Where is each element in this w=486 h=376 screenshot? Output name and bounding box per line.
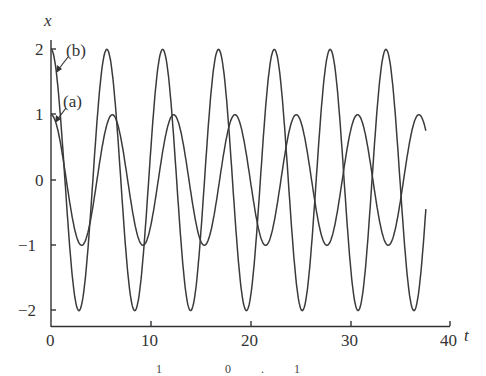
y-ticks — [51, 49, 56, 310]
y-tick-label-0: 0 — [35, 171, 44, 190]
x-ticks — [151, 321, 450, 326]
series-a-curve — [51, 115, 426, 246]
annotation-b-label: (b) — [66, 41, 86, 60]
annotation-b: (b) — [56, 41, 86, 73]
annotation-a-label: (a) — [63, 92, 82, 111]
y-tick-label-2: 2 — [35, 40, 44, 59]
y-tick-label-minus-2: −2 — [18, 301, 36, 320]
y-tick-label-minus-1: −1 — [18, 236, 36, 255]
y-axis-label: x — [43, 11, 52, 30]
x-tick-label-10: 10 — [141, 331, 158, 350]
x-tick-label-40: 40 — [440, 331, 457, 350]
y-tick-label-1: 1 — [35, 105, 44, 124]
x-axis-label: t — [464, 326, 470, 345]
figure-caption: 1 0.1 — [0, 362, 486, 376]
x-tick-label-0: 0 — [46, 331, 55, 350]
chart-canvas: 2 1 0 −1 −2 0 10 20 30 40 x t (b) (a) — [0, 0, 486, 376]
series-b-curve — [51, 49, 426, 310]
x-tick-label-30: 30 — [341, 331, 358, 350]
x-tick-label-20: 20 — [241, 331, 258, 350]
